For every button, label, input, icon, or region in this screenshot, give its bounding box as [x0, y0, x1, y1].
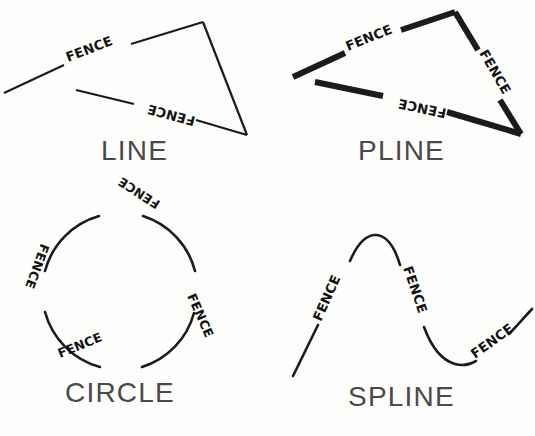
spline-part-a	[293, 325, 318, 376]
figure-pline: FENCE FENCE FENCE PLINE	[293, 12, 521, 166]
caption-spline: SPLINE	[348, 381, 455, 412]
caption-circle: CIRCLE	[65, 377, 175, 408]
circle-arc-top-left	[45, 216, 99, 271]
caption-pline: PLINE	[358, 135, 445, 166]
figure-line: FENCE FENCE LINE	[4, 22, 247, 166]
pline-upper-left-part-a	[293, 53, 345, 77]
fence-label-spline-rising: FENCE	[310, 273, 344, 324]
diagram-canvas: FENCE FENCE LINE FENCE FENCE FENCE PLINE	[0, 0, 535, 436]
fence-label-pline-bottom: FENCE	[397, 96, 448, 121]
circle-arc-top-right	[143, 216, 195, 271]
fence-label-circle-left: FENCE	[22, 242, 52, 291]
caption-line: LINE	[101, 135, 168, 166]
figure-spline: FENCE FENCE FENCE SPLINE	[293, 235, 532, 412]
circle-arc-bottom-right	[142, 313, 194, 367]
fence-label-circle-top: FENCE	[115, 174, 162, 212]
fence-label-pline-right: FENCE	[476, 47, 513, 97]
fence-label-spline-falling: FENCE	[400, 264, 430, 315]
fence-label-line-lower: FENCE	[146, 101, 197, 128]
pline-right-part-a	[455, 12, 478, 50]
line-upper-left-part-b	[131, 22, 203, 44]
line-lower-part-b	[76, 90, 134, 104]
fence-label-pline-upper: FENCE	[344, 22, 395, 54]
fence-label-spline-trailing: FENCE	[468, 321, 516, 362]
fence-label-circle-bottom: FENCE	[56, 329, 105, 360]
line-lower-part-a	[196, 120, 247, 135]
fence-label-circle-right: FENCE	[184, 291, 217, 340]
figure-circle: FENCE FENCE FENCE FENCE CIRCLE	[22, 174, 217, 408]
pline-bottom-part-b	[315, 82, 383, 96]
spline-part-b	[350, 235, 400, 265]
line-right-segment	[203, 22, 247, 135]
fence-label-line-upper: FENCE	[64, 33, 115, 64]
pline-upper-left-part-b	[401, 12, 455, 30]
spline-part-c	[424, 327, 476, 365]
linetype-label-examples-diagram: FENCE FENCE LINE FENCE FENCE FENCE PLINE	[0, 0, 535, 436]
line-upper-left-part-a	[4, 65, 64, 93]
